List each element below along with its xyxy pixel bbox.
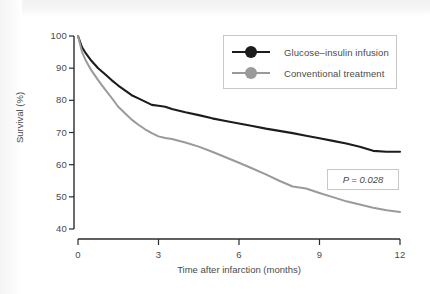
x-tick-label: 12 [390,249,410,260]
y-tick-label: 90 [41,62,67,73]
legend-item-conventional: Conventional treatment [232,65,384,81]
legend-label: Glucose–insulin infusion [284,47,389,58]
legend: Glucose–insulin infusion Conventional tr… [223,35,397,89]
y-axis-ticks [69,36,74,229]
legend-item-glucose-insulin: Glucose–insulin infusion [232,44,389,60]
y-tick-label: 60 [41,159,67,170]
legend-marker-icon [232,66,270,80]
x-tick-label: 6 [229,249,249,260]
p-value-annotation: P = 0.028 [327,169,399,190]
y-tick-label: 80 [41,94,67,105]
y-tick-label: 40 [41,223,67,234]
x-tick-label: 3 [149,249,169,260]
legend-label: Conventional treatment [284,68,384,79]
survival-chart-figure: 405060708090100 036912 Survival (%) Time… [0,0,430,294]
y-tick-label: 100 [41,30,67,41]
x-axis-title: Time after infarction (months) [78,264,400,275]
x-axis-ticks [78,239,400,245]
y-axis-title: Survival (%) [14,83,25,153]
legend-marker-icon [232,45,270,59]
x-tick-label: 0 [68,249,88,260]
p-value-text: P = 0.028 [343,174,384,185]
x-tick-label: 9 [310,249,330,260]
y-tick-label: 70 [41,127,67,138]
y-tick-label: 50 [41,191,67,202]
